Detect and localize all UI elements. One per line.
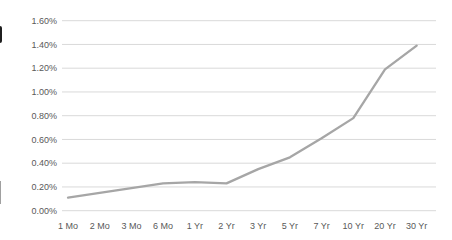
y-tick-label: 0.00% (31, 206, 57, 216)
x-tick-label: 1 Yr (187, 221, 203, 231)
y-tick-label: 0.40% (31, 158, 57, 168)
y-tick-label: 1.20% (31, 63, 57, 73)
x-tick-label: 3 Yr (250, 221, 266, 231)
x-tick-label: 1 Mo (58, 221, 78, 231)
x-tick-label: 3 Mo (121, 221, 141, 231)
x-tick-label: 7 Yr (313, 221, 329, 231)
x-tick-label: 2 Mo (90, 221, 110, 231)
y-tick-label: 0.60% (31, 135, 57, 145)
x-tick-label: 2 Yr (218, 221, 234, 231)
x-tick-label: 30 Yr (406, 221, 427, 231)
chart-screen: 0.00%0.20%0.40%0.60%0.80%1.00%1.20%1.40%… (0, 0, 452, 240)
y-tick-label: 0.80% (31, 111, 57, 121)
yield-curve-line-chart: 0.00%0.20%0.40%0.60%0.80%1.00%1.20%1.40%… (0, 0, 452, 240)
x-tick-label: 10 Yr (343, 221, 364, 231)
y-tick-label: 0.20% (31, 182, 57, 192)
x-tick-label: 20 Yr (374, 221, 395, 231)
x-tick-label: 6 Mo (153, 221, 173, 231)
x-tick-label: 5 Yr (282, 221, 298, 231)
y-tick-label: 1.00% (31, 87, 57, 97)
y-tick-label: 1.40% (31, 40, 57, 50)
y-tick-label: 1.60% (31, 16, 57, 26)
